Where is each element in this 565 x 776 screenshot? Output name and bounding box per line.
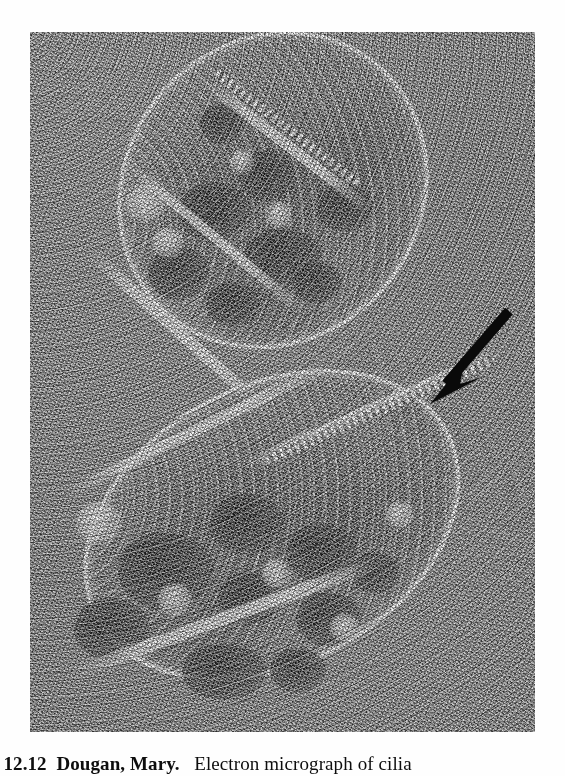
- bright-fracture-face: [158, 584, 192, 616]
- figure-caption-text: Electron micrograph of cilia: [194, 753, 412, 774]
- figure-caption: RE 12.12 Dougan, Mary. Electron microgra…: [0, 752, 565, 776]
- caption-space-2: [180, 753, 195, 774]
- figure-credit: Dougan, Mary.: [56, 753, 179, 774]
- bright-fracture-face: [386, 502, 414, 528]
- caption-space-1: [47, 753, 57, 774]
- bright-fracture-face: [262, 560, 290, 588]
- micrograph-image: [30, 32, 535, 732]
- figure-number: RE 12.12: [0, 753, 47, 774]
- page-canvas: RE 12.12 Dougan, Mary. Electron microgra…: [0, 0, 565, 776]
- bright-fracture-face: [76, 502, 122, 544]
- bright-fracture-face: [230, 150, 254, 174]
- bright-fracture-face: [266, 202, 292, 228]
- micrograph-figure: [30, 32, 535, 732]
- bright-fracture-face: [152, 228, 184, 258]
- figure-caption-line: RE 12.12 Dougan, Mary. Electron microgra…: [0, 752, 412, 776]
- bright-fracture-face: [330, 614, 360, 642]
